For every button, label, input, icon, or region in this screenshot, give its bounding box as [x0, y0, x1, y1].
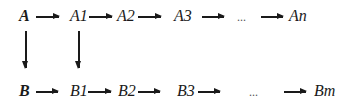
node-bm: Bm — [314, 83, 335, 99]
arrow-a-to-a1 — [36, 16, 59, 18]
node-b: B — [19, 83, 30, 99]
ellipsis-top: ... — [237, 11, 246, 23]
node-a: A — [19, 8, 30, 24]
arrow-a1-to-a2 — [89, 16, 112, 18]
arrow-b2-to-b3 — [138, 91, 160, 93]
node-b3: B3 — [177, 83, 195, 99]
arrow-a3-to-ellipsis — [202, 16, 224, 18]
arrow-b1-to-b2 — [88, 91, 111, 93]
arrow-a-to-b — [25, 31, 27, 68]
arrow-b-to-b1 — [36, 91, 58, 93]
node-a2: A2 — [117, 8, 135, 24]
node-an: An — [289, 8, 307, 24]
arrow-ellipsis-to-an — [261, 16, 283, 18]
arrow-a2-to-a3 — [138, 16, 161, 18]
ellipsis-bottom: ... — [249, 86, 258, 98]
arrow-a1-to-b1 — [78, 31, 80, 68]
node-b1: B1 — [70, 83, 88, 99]
node-b2: B2 — [118, 83, 136, 99]
node-a3: A3 — [174, 8, 192, 24]
arrow-ellipsis-to-bm — [284, 91, 306, 93]
node-a1: A1 — [70, 8, 88, 24]
arrow-b3-to-ellipsis — [198, 91, 220, 93]
